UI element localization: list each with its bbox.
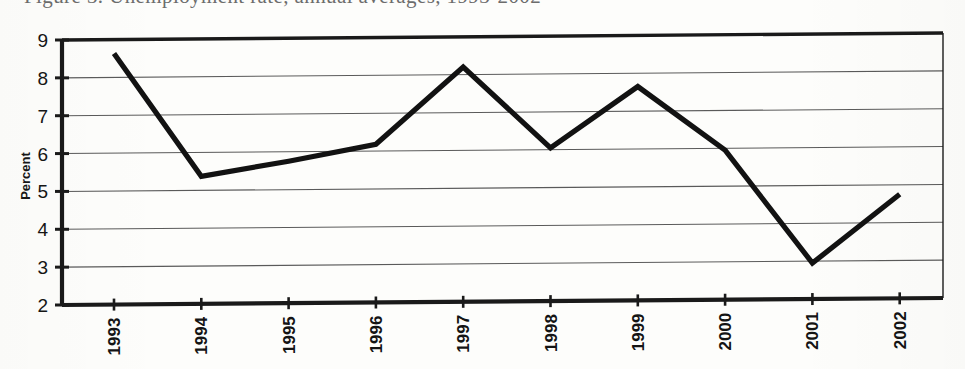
x-tick-label: 1995 [280,316,299,354]
y-tick-label: 3 [37,257,48,278]
x-tick-label: 1993 [105,318,124,356]
y-axis-title: Percent [18,151,33,199]
x-tick-label: 2001 [803,312,822,350]
x-axis-tick-labels: 1993199419951996199719981999200020012002 [105,311,910,355]
x-tick-label: 2000 [716,313,735,351]
x-tick-label: 1997 [454,315,473,353]
y-tick-label: 9 [37,30,48,51]
x-tick-label: 2002 [891,311,910,349]
y-tick-label: 8 [37,68,48,89]
chart-plot-area: 23456789 1993199419951996199719981999200… [18,30,943,355]
x-tick-label: 1996 [367,316,386,354]
x-tick-label: 1994 [192,316,211,354]
line-chart: 23456789 1993199419951996199719981999200… [0,0,965,369]
y-tick-label: 7 [37,106,48,127]
x-tick-label: 1998 [542,314,561,352]
y-tick-label: 6 [37,144,48,165]
x-tick-label: 1999 [629,313,648,351]
y-tick-label: 4 [37,219,48,240]
y-tick-label: 2 [37,295,48,316]
chart-page: Figure 3. Unemployment rate, annual aver… [0,0,965,369]
y-tick-label: 5 [37,181,48,202]
y-axis-tick-labels: 23456789 [37,30,48,316]
